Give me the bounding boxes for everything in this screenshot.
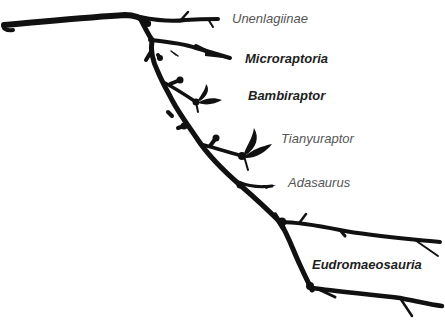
trunk-branch: [4, 15, 148, 25]
taxon-label-microraptoria: Microraptoria: [245, 52, 328, 65]
phylogeny-diagram: Unenlagiinae Microraptoria Bambiraptor T…: [0, 0, 445, 326]
taxon-label-eudromaeosauria: Eudromaeosauria: [312, 258, 422, 271]
microraptoria-branch: [150, 40, 230, 58]
tree-branch-illustration: [0, 0, 445, 326]
taxon-label-bambiraptor: Bambiraptor: [248, 89, 325, 102]
taxon-label-tianyuraptor: Tianyuraptor: [281, 132, 354, 145]
main-descent: [151, 40, 312, 290]
bambiraptor-leaf-up: [198, 84, 208, 101]
taxon-label-adasaurus: Adasaurus: [288, 176, 350, 189]
eudromaeosauria-upper-branch: [280, 222, 440, 242]
taxon-label-unenlagiinae: Unenlagiinae: [232, 12, 308, 25]
